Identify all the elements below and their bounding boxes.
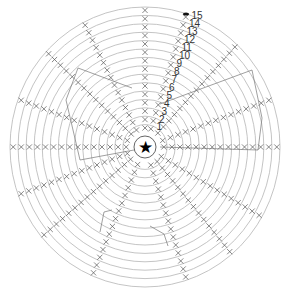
row-number-15: 15 (191, 10, 203, 21)
stitch-x-icon (41, 183, 46, 188)
stitch-x-icon (46, 51, 51, 56)
stitch-x-icon (227, 249, 232, 254)
stitch-x-icon (51, 144, 56, 149)
stitch-x-icon (232, 44, 237, 49)
stitch-x-icon (64, 174, 69, 179)
stitch-x-icon (163, 78, 168, 83)
stitch-x-icon (187, 171, 192, 176)
stitch-x-icon (178, 258, 183, 263)
stitch-x-icon (161, 86, 166, 91)
spoke-10 (19, 151, 130, 196)
stitch-x-icon (79, 200, 84, 205)
stitch-x-icon (222, 192, 227, 197)
stitch-x-icon (117, 154, 122, 159)
stitch-x-icon (236, 109, 241, 114)
stitch-x-icon (171, 54, 176, 59)
stitch-x-icon (34, 103, 39, 108)
stitch-x-icon (60, 216, 65, 221)
stitch-x-icon (41, 232, 46, 237)
stitch-x-icon (166, 70, 171, 75)
spoke-9 (41, 157, 133, 238)
stitch-x-icon (160, 165, 165, 170)
stitch-x-icon (75, 144, 80, 149)
stitch-x-icon (79, 121, 84, 126)
spoke-0 (142, 8, 147, 131)
stitch-x-icon (119, 201, 124, 206)
stitch-x-icon (215, 188, 220, 193)
stitch-x-icon (216, 63, 221, 68)
stitch-x-icon (212, 230, 217, 235)
stitch-x-icon (91, 189, 96, 194)
stitch-x-icon (123, 105, 128, 110)
stitch-x-icon (116, 167, 121, 172)
stitch-x-icon (142, 16, 147, 21)
stitch-x-icon (124, 144, 129, 149)
stitch-x-icon (199, 81, 204, 86)
stitch-x-icon (90, 38, 95, 43)
stitch-x-icon (165, 172, 170, 177)
stitch-x-icon (274, 144, 279, 149)
stitch-x-icon (194, 175, 199, 180)
stitch-x-icon (142, 100, 147, 105)
stitch-x-icon (110, 132, 115, 137)
stitch-x-icon (142, 25, 147, 30)
stitch-x-icon (119, 97, 124, 102)
stitch-x-icon (206, 223, 211, 228)
stitch-x-icon (142, 41, 147, 46)
row-numbers: 123456789101112131415 (157, 10, 203, 133)
stitch-x-icon (111, 114, 116, 119)
stitch-x-icon (64, 68, 69, 73)
stitch-x-icon (251, 103, 256, 108)
stitch-x-icon (173, 162, 178, 167)
stitch-x-icon (87, 91, 92, 96)
spoke-3 (160, 98, 271, 143)
stitch-x-icon (183, 129, 188, 134)
stitch-x-icon (191, 204, 196, 209)
stitch-x-icon (168, 62, 173, 67)
stitch-x-icon (107, 144, 112, 149)
stitch-x-icon (87, 165, 92, 170)
stitch-x-icon (102, 160, 107, 165)
spoke-14 (83, 23, 139, 133)
stitch-x-icon (81, 86, 86, 91)
stitch-x-icon (142, 8, 147, 13)
stitch-x-icon (181, 22, 186, 27)
stitch-x-icon (101, 60, 106, 65)
stitch-x-icon (97, 255, 102, 260)
stitch-x-icon (83, 144, 88, 149)
stitch-x-icon (257, 213, 262, 218)
stitch-x-icon (185, 144, 190, 149)
stitch-x-icon (243, 106, 248, 111)
stitch-x-icon (159, 154, 164, 159)
stitch-x-icon (134, 127, 139, 132)
spoke-13 (46, 51, 134, 136)
stitch-x-icon (128, 157, 133, 162)
stitch-x-icon (194, 144, 199, 149)
stitch-x-icon (26, 188, 31, 193)
stitch-x-icon (142, 117, 147, 122)
stitch-x-icon (135, 162, 140, 167)
stitch-x-icon (190, 126, 195, 131)
stitch-x-icon (110, 157, 115, 162)
stitch-x-icon (177, 106, 182, 111)
stitch-x-icon (172, 112, 177, 117)
stitch-x-icon (148, 126, 153, 131)
stitch-x-icon (142, 50, 147, 55)
stitch-x-icon (97, 53, 102, 58)
stitch-x-icon (76, 80, 81, 85)
stitch-x-icon (132, 170, 137, 175)
stitch-x-icon (160, 138, 165, 143)
stitch-x-icon (201, 217, 206, 222)
stitch-x-icon (107, 232, 112, 237)
stitch-x-icon (217, 236, 222, 241)
stitch-x-icon (43, 144, 48, 149)
stitch-x-icon (170, 178, 175, 183)
stitch-x-icon (129, 131, 134, 136)
stitch-x-icon (102, 129, 107, 134)
stitch-x-icon (178, 30, 183, 35)
stitch-x-icon (117, 135, 122, 140)
stitch-x-icon (242, 144, 247, 149)
stitch-x-icon (177, 144, 182, 149)
stitch-x-icon (166, 158, 171, 163)
spoke-1 (148, 14, 188, 131)
